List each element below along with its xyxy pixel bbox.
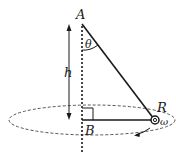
height-arrow-top-icon [67, 24, 72, 31]
label-a: A [75, 7, 85, 22]
conical-pendulum-diagram: A θ h R ω B [0, 0, 176, 157]
bob-outer [151, 116, 159, 124]
label-b: B [84, 123, 95, 138]
label-h: h [64, 65, 72, 80]
height-arrow-bottom-icon [67, 113, 72, 120]
label-theta: θ [85, 38, 92, 51]
right-angle-marker [82, 108, 93, 120]
label-r: R [156, 100, 167, 115]
label-omega: ω [160, 116, 168, 127]
rotation-arrowhead-icon [134, 133, 140, 138]
